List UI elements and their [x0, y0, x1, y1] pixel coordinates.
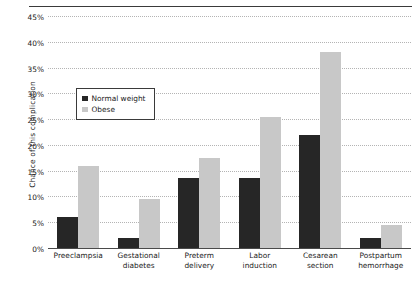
grouped-bar-chart: Chance of this complication 45%40%35%30%…: [0, 0, 415, 282]
bar-group: [48, 16, 109, 248]
legend-label-normal-weight: Normal weight: [92, 94, 146, 103]
x-axis-category-label-line: Cesarean: [290, 251, 351, 261]
bar: [57, 217, 78, 248]
y-axis-tick-label: 5%: [32, 219, 44, 228]
chart-legend: Normal weight Obese: [76, 88, 155, 120]
y-axis-tick-label: 10%: [28, 193, 44, 202]
legend-swatch-icon-obese: [82, 107, 88, 113]
x-axis-category-label-line: hemorrhage: [351, 261, 412, 271]
bar-group: [351, 16, 412, 248]
x-axis-category-label: Cesareansection: [290, 251, 351, 270]
legend-item-normal-weight: Normal weight: [82, 93, 146, 104]
bar-group: [169, 16, 230, 248]
legend-swatch-icon-normal-weight: [82, 96, 88, 102]
x-axis-category-label-line: induction: [230, 261, 291, 271]
y-axis-tick-label: 20%: [28, 141, 44, 150]
y-axis-tick-label: 45%: [28, 13, 44, 22]
bar: [381, 225, 402, 248]
bar-group-container: [48, 16, 411, 248]
top-divider-rule: [29, 6, 412, 7]
x-axis-category-label: Pretermdelivery: [169, 251, 230, 270]
legend-label-obese: Obese: [92, 105, 115, 114]
bar: [199, 158, 220, 248]
x-axis-category-label-line: Labor: [230, 251, 291, 261]
x-axis-category-label-line: Gestational: [109, 251, 170, 261]
x-axis-category-label: Postpartumhemorrhage: [351, 251, 412, 270]
x-axis-category-label-line: section: [290, 261, 351, 271]
bar-group: [230, 16, 291, 248]
legend-item-obese: Obese: [82, 104, 146, 115]
bar-group: [290, 16, 351, 248]
y-axis-tick-label: 30%: [28, 90, 44, 99]
x-axis-category-label-line: Preeclampsia: [48, 251, 109, 261]
x-axis-category-label-line: Preterm: [169, 251, 230, 261]
bar: [320, 52, 341, 248]
x-axis-category-label: Gestationaldiabetes: [109, 251, 170, 270]
bar: [260, 117, 281, 248]
bar: [118, 238, 139, 248]
bar: [139, 199, 160, 248]
x-axis-category-label: Laborinduction: [230, 251, 291, 270]
y-axis-tick-label: 40%: [28, 38, 44, 47]
bar: [78, 166, 99, 248]
axis-baseline: 0%: [48, 248, 411, 249]
x-axis-category-label-line: Postpartum: [351, 251, 412, 261]
x-axis-category-label-line: diabetes: [109, 261, 170, 271]
bar: [299, 135, 320, 248]
y-axis-tick-label: 25%: [28, 116, 44, 125]
y-axis-tick-label: 15%: [28, 167, 44, 176]
y-axis-tick-label: 0%: [32, 245, 44, 254]
x-axis-category-label-line: delivery: [169, 261, 230, 271]
bar-group: [109, 16, 170, 248]
x-axis-category-label: Preeclampsia: [48, 251, 109, 270]
x-axis-label-group: PreeclampsiaGestationaldiabetesPretermde…: [48, 251, 411, 270]
y-axis-tick-label: 35%: [28, 64, 44, 73]
bar: [239, 178, 260, 248]
bar: [178, 178, 199, 248]
bar: [360, 238, 381, 248]
plot-area: 45%40%35%30%25%20%15%10%5%0%: [48, 16, 411, 248]
